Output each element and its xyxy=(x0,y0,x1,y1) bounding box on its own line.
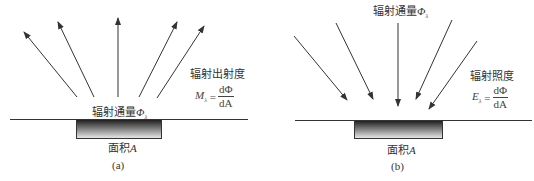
formula-denominator: dA xyxy=(494,98,507,110)
emitted-arrows xyxy=(24,18,204,98)
formula-symbol: M xyxy=(195,89,204,101)
formula-a: Mλ = dΦ dA xyxy=(195,84,234,109)
formula-equals: = xyxy=(210,91,216,103)
flux-subscript: λ xyxy=(144,114,147,120)
area-element-a xyxy=(77,120,162,139)
arrow-icon xyxy=(58,22,94,97)
formula-symbol: E xyxy=(472,90,479,102)
caption-a: (a) xyxy=(112,160,124,171)
formula-numerator: dΦ xyxy=(493,85,509,98)
incident-arrows xyxy=(294,20,477,109)
formula-b: Eλ = dΦ dA xyxy=(472,85,508,110)
formula-numerator: dΦ xyxy=(218,84,234,97)
flux-subscript: λ xyxy=(425,13,428,19)
area-symbol: A xyxy=(409,144,416,156)
area-element-b xyxy=(355,121,443,139)
arrow-icon xyxy=(139,22,177,97)
quantity-name-a: 辐射出射度 xyxy=(190,69,245,80)
area-label-b: 面积A xyxy=(387,145,416,156)
formula-denominator: dA xyxy=(219,97,232,109)
flux-label-b: 辐射通量Φλ xyxy=(373,6,428,19)
arrow-icon xyxy=(336,23,373,99)
formula-lhs: Mλ xyxy=(195,89,207,103)
area-text: 面积 xyxy=(108,142,130,154)
formula-subscript: λ xyxy=(204,98,207,104)
caption-b: (b) xyxy=(391,161,404,172)
area-label-a: 面积A xyxy=(108,143,137,154)
formula-fraction: dΦ dA xyxy=(493,85,509,110)
flux-text: 辐射通量 xyxy=(92,106,136,118)
formula-lhs: Eλ xyxy=(472,90,481,104)
quantity-name-b: 辐射照度 xyxy=(470,71,514,82)
arrow-icon xyxy=(416,20,452,99)
diagram-canvas xyxy=(0,0,534,181)
flux-label-a: 辐射通量Φλ xyxy=(92,107,147,120)
arrow-icon xyxy=(294,36,347,100)
arrow-icon xyxy=(24,32,77,97)
area-text: 面积 xyxy=(387,144,409,156)
formula-subscript: λ xyxy=(479,99,482,105)
flux-text: 辐射通量 xyxy=(373,5,417,17)
formula-equals: = xyxy=(484,92,490,104)
area-symbol: A xyxy=(130,142,137,154)
formula-fraction: dΦ dA xyxy=(218,84,234,109)
